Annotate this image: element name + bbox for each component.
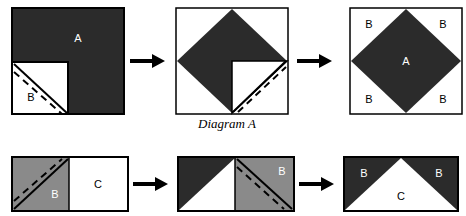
arrow-right-icon bbox=[130, 52, 166, 70]
arrow-shape bbox=[133, 177, 168, 191]
diagram-canvas: A B A B B B B bbox=[0, 0, 466, 216]
label-b: B bbox=[27, 91, 34, 103]
label-a: A bbox=[402, 55, 410, 67]
top-step-3-figure: A B B B B bbox=[348, 6, 464, 116]
label-b: B bbox=[278, 165, 285, 177]
caption-diagram-a: Diagram A bbox=[198, 116, 256, 132]
bottom-step-3-figure: B B C bbox=[342, 155, 460, 213]
arrow-shape bbox=[299, 177, 334, 191]
label-b-bottom-left: B bbox=[365, 93, 372, 105]
label-b: B bbox=[51, 188, 58, 200]
label-c: C bbox=[94, 178, 102, 190]
bottom-step-2-panel: B bbox=[176, 155, 296, 213]
bottom-step-1-figure: B C bbox=[10, 155, 130, 213]
label-b-bottom-right: B bbox=[439, 93, 446, 105]
arrow-right-icon bbox=[297, 52, 333, 70]
label-a: A bbox=[74, 32, 82, 44]
arrow-shape bbox=[297, 54, 332, 68]
top-step-1-figure: A B bbox=[10, 6, 126, 116]
bottom-step-2-figure: B bbox=[176, 155, 296, 213]
bottom-arrow-1 bbox=[133, 175, 169, 193]
top-step-2-panel bbox=[174, 6, 290, 116]
top-step-1-panel: A B bbox=[10, 6, 126, 116]
label-b-left: B bbox=[360, 167, 367, 179]
bottom-arrow-2 bbox=[299, 175, 335, 193]
label-b-top-right: B bbox=[439, 18, 446, 30]
label-c: C bbox=[397, 190, 405, 202]
top-arrow-1 bbox=[130, 52, 166, 70]
top-arrow-2 bbox=[297, 52, 333, 70]
label-b-top-left: B bbox=[365, 18, 372, 30]
bottom-step-3-panel: B B C bbox=[342, 155, 460, 213]
arrow-right-icon bbox=[299, 175, 335, 193]
bottom-step-1-panel: B C bbox=[10, 155, 130, 213]
arrow-right-icon bbox=[133, 175, 169, 193]
arrow-shape bbox=[130, 54, 165, 68]
top-step-3-panel: A B B B B bbox=[348, 6, 464, 116]
top-step-2-figure bbox=[174, 6, 290, 116]
label-b-right: B bbox=[435, 167, 442, 179]
